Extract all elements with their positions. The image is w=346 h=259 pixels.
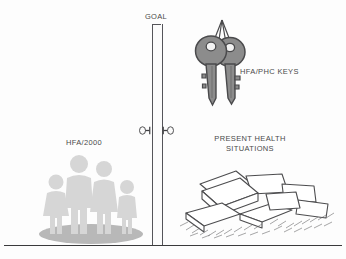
goal-label: GOAL: [126, 12, 186, 22]
diagram-canvas: GOAL: [0, 0, 346, 259]
two-keys-on-ring-illustration: [186, 14, 258, 110]
scattered-papers-pile-illustration: [178, 158, 338, 242]
pole-latch-left: [139, 125, 152, 136]
goal-pole-cap: [152, 24, 161, 25]
pole-latch-right: [161, 125, 174, 136]
hfa-2000-label: HFA/2000: [44, 138, 124, 148]
ground-baseline: [4, 245, 342, 246]
family-group-silhouette-illustration: [32, 150, 150, 246]
situations-label-line1: PRESENT HEALTH: [214, 134, 285, 143]
situations-label-line2: SITUATIONS: [226, 144, 274, 153]
present-health-situations-label: PRESENT HEALTHSITUATIONS: [185, 134, 315, 154]
keys-label: HFA/PHC KEYS: [240, 67, 336, 77]
